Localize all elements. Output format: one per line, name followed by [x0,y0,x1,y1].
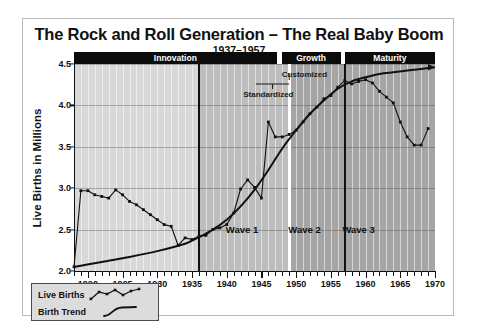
data-point [218,227,221,230]
data-point [399,121,402,124]
data-point [281,136,284,139]
x-tick-label: 1955 [321,279,341,289]
x-tick-major [123,272,124,278]
data-point [427,127,430,130]
data-point [177,244,180,247]
x-tick-minor [324,272,325,276]
chart-title: The Rock and Roll Generation – The Real … [23,25,455,44]
data-point [163,223,166,226]
data-point [184,237,187,240]
y-tick-label: 3.5 [58,142,71,152]
data-point [302,121,305,124]
x-tick-major [261,272,262,278]
data-point [156,218,159,221]
x-tick-minor [373,272,374,276]
data-point [114,189,117,192]
x-tick-label: 1940 [217,279,237,289]
x-tick-minor [407,272,408,276]
data-point [413,144,416,147]
x-tick-minor [74,272,75,276]
x-tick-major [192,272,193,278]
y-axis-ticks: 2.02.53.03.54.04.5 [74,64,75,272]
data-point [93,193,96,196]
data-point [267,121,270,124]
x-tick-minor [95,272,96,276]
data-point [205,234,208,237]
x-tick-minor [109,272,110,276]
legend-swatch-live-births [89,287,141,302]
x-tick-label: 1950 [286,279,306,289]
x-tick-minor [178,272,179,276]
x-tick-minor [379,272,380,276]
phase-label-growth: Growth [282,52,341,64]
x-tick-minor [310,272,311,276]
y-tick-label: 4.0 [58,100,71,110]
wave-1-label: Wave 1 [226,224,258,235]
x-tick-minor [241,272,242,276]
x-tick-minor [199,272,200,276]
wave-3-label: Wave 3 [342,224,374,235]
data-point [198,235,201,238]
data-point [288,133,291,136]
x-tick-minor [275,272,276,276]
data-point [316,106,319,109]
data-point [343,79,346,82]
x-tick-minor [338,272,339,276]
data-point [253,186,256,189]
data-point [100,195,103,198]
y-tick-label: 4.5 [58,59,71,69]
x-tick-minor [428,272,429,276]
x-tick-minor [386,272,387,276]
legend-item-birth-trend: Birth Trend [38,303,142,320]
data-point [239,188,242,191]
x-tick-minor [359,272,360,276]
x-tick-minor [150,272,151,276]
x-tick-major [400,272,401,278]
x-tick-minor [248,272,249,276]
data-point [142,208,145,211]
phase-label-maturity: Maturity [345,52,435,64]
x-tick-minor [81,272,82,276]
plot-area: Wave 1Wave 2Wave 3StandardizedCustomized [74,64,435,271]
x-tick-major [435,272,436,278]
legend-item-live-births: Live Births [38,286,141,303]
data-point [336,86,339,89]
data-point [274,136,277,139]
x-tick-minor [421,272,422,276]
x-tick-minor [255,272,256,276]
data-point [357,80,360,83]
data-point [135,203,138,206]
data-point [149,213,152,216]
x-tick-minor [345,272,346,276]
y-tick-label: 2.5 [58,225,71,235]
data-point [191,238,194,241]
data-point [260,197,263,200]
x-tick-major [366,272,367,278]
y-axis-label-text: Live Births in Millions [31,109,43,228]
x-tick-minor [136,272,137,276]
x-tick-label: 1935 [182,279,202,289]
x-tick-minor [185,272,186,276]
x-tick-minor [220,272,221,276]
chart-legend: Live Births Birth Trend [31,283,159,321]
x-tick-label: 1945 [251,279,271,289]
data-point [295,129,298,132]
x-tick-major [296,272,297,278]
data-point [406,136,409,139]
x-tick-minor [206,272,207,276]
x-tick-major [88,272,89,278]
x-tick-minor [393,272,394,276]
wave-2-label: Wave 2 [288,224,320,235]
data-point [323,97,326,100]
series-live-births [73,78,430,268]
y-tick-label: 2.0 [58,266,71,276]
legend-label-live-births: Live Births [38,290,85,300]
x-tick-label: 1965 [390,279,410,289]
phase-label-innovation: Innovation [74,52,277,64]
chart-frame: The Rock and Roll Generation – The Real … [22,18,454,316]
data-point [232,212,235,215]
y-axis-label: Live Births in Millions [29,64,45,272]
x-tick-minor [289,272,290,276]
data-point [420,144,423,147]
data-point [378,90,381,93]
